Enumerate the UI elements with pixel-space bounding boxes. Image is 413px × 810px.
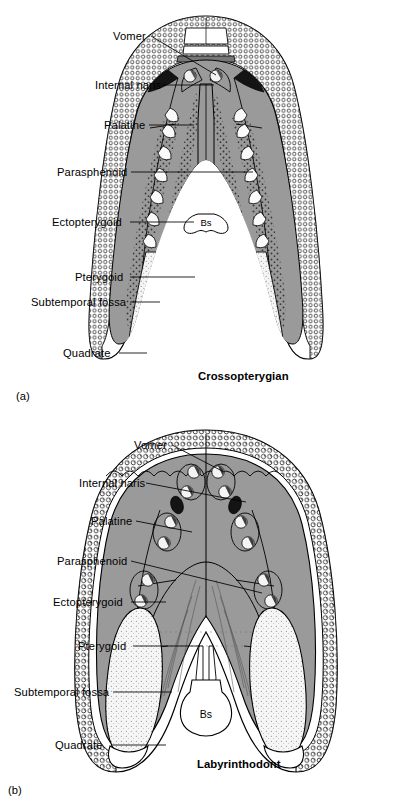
panel-a-crossopterygian: Bs Vomer Internal naris Palatine Parasph… bbox=[0, 0, 413, 410]
caption-labyrinthodont: Labyrinthodont bbox=[197, 758, 281, 770]
label-palatine-a: Palatine bbox=[104, 119, 145, 131]
basisphenoid-a: Bs bbox=[184, 214, 228, 233]
bs-label-a: Bs bbox=[200, 217, 211, 228]
label-parasphenoid-a: Parasphenoid bbox=[57, 166, 127, 178]
label-internal-naris-b: Internal naris bbox=[79, 477, 145, 489]
label-pterygoid-b: Pterygoid bbox=[78, 640, 126, 652]
label-subtemporal-fossa-a: Subtemporal fossa bbox=[31, 296, 126, 308]
crossopterygian-skull-drawing: Bs bbox=[0, 0, 413, 410]
panel-tag-b: (b) bbox=[8, 784, 22, 796]
label-subtemporal-fossa-b: Subtemporal fossa bbox=[14, 686, 109, 698]
label-quadrate-b: Quadrate bbox=[55, 739, 103, 751]
quadrate-right-a bbox=[258, 336, 283, 356]
label-internal-naris-a: Internal naris bbox=[95, 79, 161, 91]
basisphenoid-b: Bs bbox=[180, 680, 231, 736]
caption-crossopterygian: Crossopterygian bbox=[198, 370, 289, 382]
panel-tag-a: (a) bbox=[16, 390, 30, 402]
label-ectopterygoid-b: Ectopterygoid bbox=[53, 596, 123, 608]
interpterygoid-vacuity-right-b bbox=[209, 646, 216, 684]
label-quadrate-a: Quadrate bbox=[63, 347, 111, 359]
bs-label-b: Bs bbox=[200, 708, 212, 720]
panel-b-labyrinthodont: Bs Vomer Internal naris Palatine Parasph… bbox=[0, 410, 413, 810]
label-pterygoid-a: Pterygoid bbox=[75, 271, 123, 283]
label-ectopterygoid-a: Ectopterygoid bbox=[52, 216, 122, 228]
interpterygoid-vacuity-left-b bbox=[196, 646, 203, 684]
label-vomer-b: Vomer bbox=[134, 439, 167, 451]
label-palatine-b: Palatine bbox=[91, 515, 132, 527]
label-parasphenoid-b: Parasphenoid bbox=[57, 555, 127, 567]
label-vomer-a: Vomer bbox=[113, 30, 146, 42]
